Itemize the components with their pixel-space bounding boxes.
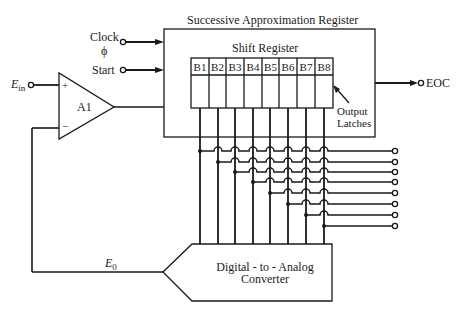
start-label: Start — [92, 64, 115, 77]
bit-label-b8: B8 — [315, 61, 333, 74]
plus-sign: + — [62, 79, 68, 92]
ein-label: Ein — [11, 78, 25, 95]
eoc-label: EOC — [426, 77, 450, 90]
bit-label-b6: B6 — [279, 61, 297, 74]
e0-label: E0 — [105, 257, 117, 274]
bit-label-b7: B7 — [297, 61, 315, 74]
bit-label-b4: B4 — [244, 61, 262, 74]
clock-terminal — [120, 39, 125, 44]
comparator-label: A1 — [77, 101, 92, 114]
shift-register-label: Shift Register — [232, 42, 298, 55]
clock-label: Clock — [90, 31, 119, 44]
latches-label-line2: Latches — [337, 117, 371, 130]
ein-terminal — [28, 82, 33, 87]
bit-label-b5: B5 — [262, 61, 279, 74]
bit-label-b2: B2 — [209, 61, 226, 74]
start-terminal — [120, 67, 125, 72]
sar-title: Successive Approximation Register — [187, 14, 358, 27]
dac-label-line2: Converter — [205, 273, 325, 286]
bit-label-b3: B3 — [226, 61, 244, 74]
eoc-terminal — [418, 80, 423, 85]
bit-label-b1: B1 — [191, 61, 209, 74]
minus-sign: − — [62, 120, 68, 133]
clock-phi-symbol: ϕ — [101, 45, 107, 58]
